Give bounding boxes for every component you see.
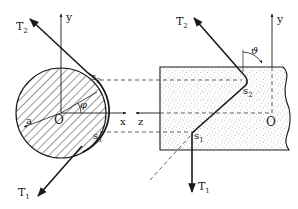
label-origin-left: O (54, 113, 64, 127)
label-a: a (26, 115, 32, 126)
rope-t2-left (30, 19, 88, 73)
label-z: z (138, 116, 143, 127)
diagram-canvas: T2 y s2 φ O a x s1 T1 z y ϑ T2 s2 (0, 0, 298, 209)
label-y-left: y (65, 11, 73, 24)
diagram-svg: T2 y s2 φ O a x s1 T1 z y ϑ T2 s2 (0, 0, 298, 209)
label-x: x (120, 116, 126, 127)
label-t2-right: T2 (176, 15, 188, 30)
label-origin-right: O (266, 115, 276, 129)
label-theta: ϑ (251, 45, 258, 56)
label-t2-left: T2 (16, 20, 28, 35)
right-side-view: z y ϑ T2 s2 O s1 T1 (136, 13, 290, 195)
label-t1-right: T1 (198, 180, 210, 195)
label-phi: φ (80, 99, 87, 110)
label-t1-left: T1 (18, 186, 30, 201)
label-y-right: y (276, 13, 284, 26)
left-cross-section: T2 y s2 φ O a x s1 T1 (16, 11, 126, 201)
cylinder-side-view (160, 67, 290, 150)
